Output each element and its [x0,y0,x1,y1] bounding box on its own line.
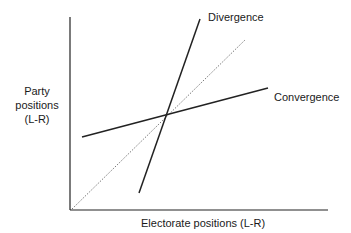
divergence-line [139,19,200,193]
convergence-label: Convergence [274,91,339,103]
y-axis-label-line: positions [12,98,62,112]
x-axis-label: Electorate positions (L-R) [141,217,265,229]
convergence-line [82,88,268,137]
reference-line-dotted [72,40,245,209]
y-axis-label-line: (L-R) [12,112,62,126]
y-axis-label-line: Party [12,84,62,98]
y-axis-label: Party positions (L-R) [12,84,62,126]
divergence-label: Divergence [208,11,264,23]
